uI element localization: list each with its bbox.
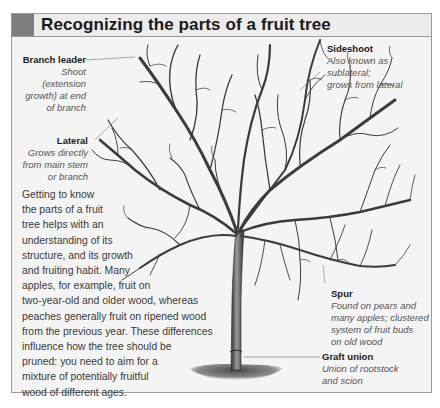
label-branch-leader: Branch leader Shoot (extension growth) a…	[20, 54, 86, 114]
label-graft-union-name: Graft union	[322, 351, 422, 363]
intro-line: two-year-old and older wood, whereas	[22, 293, 222, 308]
label-spur-desc-2: many apples; clustered	[331, 312, 431, 324]
intro-line: mixture of potentially fruitful	[22, 369, 222, 384]
intro-line: structure, and its growth	[22, 248, 222, 263]
label-sideshoot-name: Sideshoot	[327, 43, 432, 55]
label-branch-leader-desc-3: of branch	[20, 102, 86, 114]
label-sideshoot: Sideshoot Also known as sublateral; grow…	[327, 43, 432, 91]
label-lateral-desc-1: Grows directly	[20, 147, 88, 159]
label-graft-union-desc-1: Union of rootstock	[322, 363, 422, 375]
label-spur-desc-4: on old wood	[331, 336, 431, 348]
label-graft-union: Graft union Union of rootstock and scion	[322, 351, 422, 387]
intro-line: influence how the tree should be	[22, 339, 222, 354]
label-spur-name: Spur	[331, 288, 431, 300]
intro-line: peaches generally fruit on ripened wood	[22, 309, 222, 324]
tree-trunk	[231, 230, 244, 370]
label-sideshoot-desc-2: grows from lateral	[327, 79, 432, 91]
intro-line: Getting to know	[22, 187, 222, 202]
label-branch-leader-desc-1: Shoot (extension	[20, 66, 86, 90]
label-graft-union-desc-2: and scion	[322, 375, 422, 387]
intro-line: and fruiting habit. Many	[22, 263, 222, 278]
intro-line: apples, for example, fruit on	[22, 278, 222, 293]
callout-line-lateral	[95, 118, 118, 140]
label-spur-desc-1: Found on pears and	[331, 300, 431, 312]
label-spur-desc-3: system of fruit buds	[331, 324, 431, 336]
callout-line-branch-leader	[86, 57, 135, 60]
label-lateral-desc-2: from main stem	[20, 159, 88, 171]
intro-line: tree helps with an	[22, 217, 222, 232]
intro-line: the parts of a fruit	[22, 202, 222, 217]
intro-paragraph: Getting to know the parts of a fruit tre…	[22, 187, 222, 400]
label-branch-leader-desc-2: growth) at end	[20, 90, 86, 102]
intro-line: pruned: you need to aim for a	[22, 354, 222, 369]
label-sideshoot-desc-1: Also known as sublateral;	[327, 55, 432, 79]
intro-line: from the previous year. These difference…	[22, 324, 222, 339]
label-branch-leader-name: Branch leader	[20, 54, 86, 66]
label-lateral: Lateral Grows directly from main stem or…	[20, 135, 88, 183]
label-lateral-desc-3: or branch	[20, 171, 88, 183]
intro-line: wood of different ages.	[22, 385, 222, 400]
callout-line-spur	[323, 265, 325, 283]
label-lateral-name: Lateral	[20, 135, 88, 147]
intro-line: understanding of its	[22, 233, 222, 248]
label-spur: Spur Found on pears and many apples; clu…	[331, 288, 431, 348]
